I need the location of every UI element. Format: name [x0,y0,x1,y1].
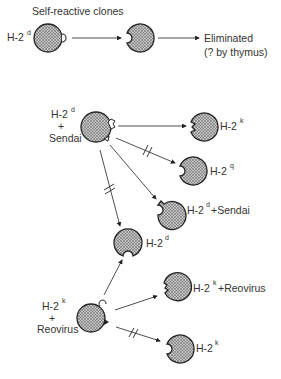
h2d-label-self: H-2 d [7,29,31,43]
svg-text:+Reovirus: +Reovirus [218,282,266,294]
svg-text:H-2: H-2 [42,300,59,312]
sendai-source-label: H-2 d + Sendai [49,106,82,144]
svg-text:H-2: H-2 [196,342,213,354]
target-cell-h2d-sendai [158,201,186,229]
target-label-h2k-bottom: H-2 k [196,339,219,354]
svg-text:k: k [215,339,219,346]
svg-text:q: q [230,162,234,170]
svg-text:d: d [71,106,75,113]
notched-cell-self [127,24,154,52]
svg-text:H-2: H-2 [220,120,237,132]
svg-text:d: d [27,29,31,36]
target-cell-h2q [180,157,207,185]
target-label-h2d: H-2 d [146,234,169,249]
target-label-h2d-sendai: H-2 d +Sendai [187,201,250,216]
svg-text:k: k [62,297,66,304]
arrow-reovirus-to-h2d [104,260,122,295]
svg-text:k: k [213,279,217,286]
arrow-reovirus-to-h2k-reovirus [115,296,157,310]
svg-text:H-2: H-2 [146,237,163,249]
eliminated-label: Eliminated [204,32,253,44]
blocked-marker-h2k [129,328,138,338]
target-label-h2k-reovirus: H-2 k +Reovirus [193,279,266,294]
svg-text:+Sendai: +Sendai [211,204,250,216]
svg-text:+: + [58,120,64,132]
reovirus-infected-cell [77,300,109,332]
self-reactive-clones-title: Self-reactive clones [32,5,124,17]
svg-text:H-2: H-2 [193,282,210,294]
svg-text:d: d [165,234,169,241]
target-cell-h2k-reovirus [164,273,192,301]
svg-text:H-2: H-2 [187,204,204,216]
arrow-sendai-to-h2d [100,150,120,226]
svg-text:Reovirus: Reovirus [37,323,78,335]
svg-text:d: d [206,201,210,208]
target-label-h2k-sendai: H-2 k [220,117,244,132]
reovirus-source-label: H-2 k + Reovirus [37,297,78,335]
target-cell-h2k-reovirus-blocked [167,335,194,363]
svg-text:H-2: H-2 [7,31,24,43]
svg-text:Sendai: Sendai [49,132,82,144]
target-label-h2q: H-2 q [210,162,234,177]
self-reactive-cell [34,24,66,52]
sendai-infected-cell [81,112,115,142]
svg-text:H-2: H-2 [51,108,68,120]
svg-text:k: k [240,117,244,124]
svg-text:H-2: H-2 [210,165,227,177]
target-cell-h2d [114,229,142,256]
target-cell-h2k-sendai [191,113,218,141]
diagram-canvas: Self-reactive clones H-2 d Eliminated (?… [0,0,281,379]
thymus-note: (? by thymus) [204,46,268,58]
